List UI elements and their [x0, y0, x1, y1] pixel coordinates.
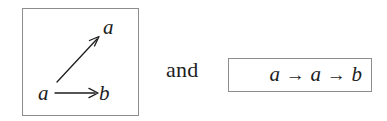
graph-node-b-target: b [99, 83, 110, 104]
figure-root: a b a and a → a → b [0, 0, 387, 121]
sequence-arrow-1: → [280, 64, 311, 85]
sequence-term-1: a [270, 62, 281, 86]
graph-node-a-target: a [103, 17, 114, 38]
sequence-box: a → a → b [228, 58, 372, 92]
sequence-term-2: a [311, 62, 322, 86]
sequence-arrow-2: → [321, 64, 352, 85]
edge-a-to-b [55, 88, 98, 97]
edge-a-to-a [57, 37, 99, 83]
sequence-term-3: b [352, 62, 363, 86]
graph-diagram-box: a b a [22, 8, 139, 116]
conjunction-label: and [166, 59, 198, 81]
sequence-expression: a → a → b [238, 43, 362, 106]
graph-node-a-source: a [38, 83, 49, 104]
